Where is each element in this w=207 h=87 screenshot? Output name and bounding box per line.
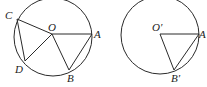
label-o-prime: O′ — [152, 21, 163, 33]
segment-do — [25, 34, 52, 61]
circle-o — [14, 0, 92, 76]
right-figure — [121, 0, 199, 74]
segment-ob — [52, 34, 69, 70]
circle-o-prime — [121, 0, 199, 74]
label-d: D — [14, 63, 23, 75]
label-b-prime: B′ — [171, 72, 181, 84]
right-labels: O′ A B′ — [152, 21, 206, 84]
left-figure — [14, 0, 92, 76]
label-o: O — [48, 21, 56, 33]
label-a-right: A — [198, 28, 206, 40]
label-c: C — [5, 9, 13, 21]
segment-co — [17, 19, 52, 34]
label-a: A — [93, 28, 101, 40]
label-b: B — [67, 72, 74, 84]
geometry-diagram: C O A D B O′ A B′ — [0, 0, 207, 87]
segment-o-prime-b-prime — [160, 34, 174, 70]
